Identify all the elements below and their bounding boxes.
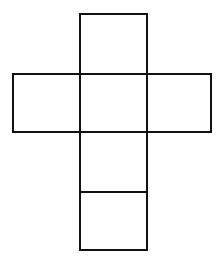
face-center [80,74,147,132]
cube-net-diagram [0,0,222,265]
face-bottom [80,192,147,250]
face-lower [80,132,147,192]
face-right [147,74,211,132]
face-left [13,74,80,132]
face-top [80,14,147,74]
